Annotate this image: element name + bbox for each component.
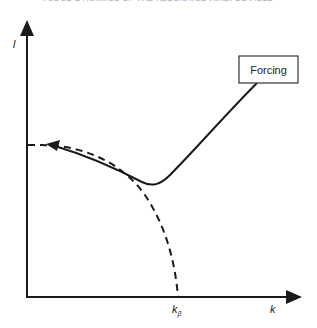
y-axis-arrowhead-icon xyxy=(20,20,34,36)
forcing-label: Forcing xyxy=(250,64,287,76)
free-mode-curve xyxy=(28,145,178,297)
k-beta-label: kβ xyxy=(172,303,182,318)
y-axis-label: l xyxy=(13,38,16,50)
forced-response-arrowhead-icon xyxy=(46,140,60,151)
x-axis-arrowhead-icon xyxy=(286,290,302,304)
k-beta-subscript: β xyxy=(177,310,182,318)
forced-response-curve xyxy=(58,83,257,185)
diagram: l k kβ Forcing xyxy=(0,0,317,328)
x-axis-label: k xyxy=(270,303,276,315)
